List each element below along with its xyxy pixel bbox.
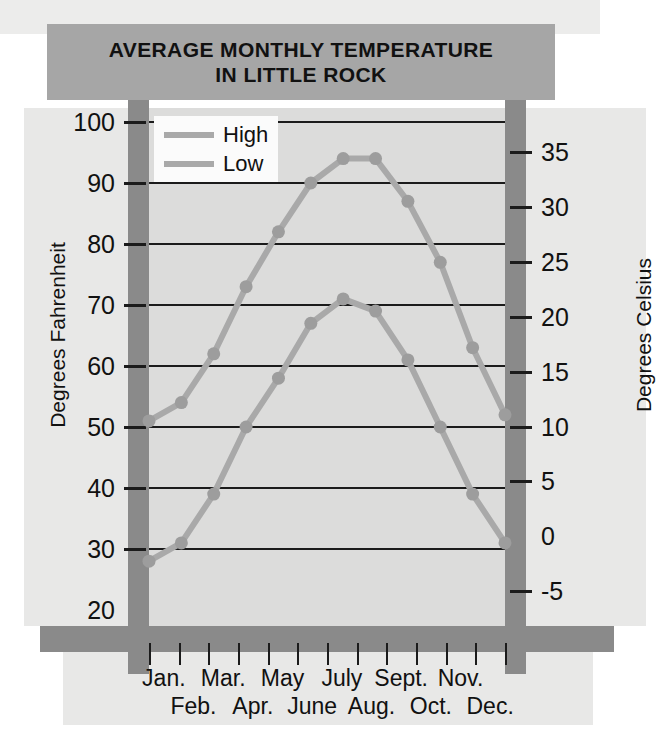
x-tick-mark: [446, 643, 448, 665]
y-tick-right: 35: [510, 141, 589, 165]
chart-title-line-1: AVERAGE MONTHLY TEMPERATURE: [109, 37, 494, 62]
x-axis-month-label: Mar.: [201, 665, 246, 692]
x-axis-month-label: Nov.: [438, 665, 484, 692]
y-tick-right-label: 30: [541, 193, 589, 222]
x-tick-mark: [149, 643, 151, 665]
y-tick-right-mark: [510, 261, 532, 264]
y-tick-left: 90: [59, 171, 146, 195]
data-point: [401, 195, 414, 208]
y-tick-right: 0: [510, 525, 589, 549]
y-tick-right: 25: [510, 250, 589, 274]
data-point: [207, 347, 220, 360]
y-tick-left-label: 90: [59, 169, 115, 198]
x-tick-mark: [327, 643, 329, 665]
y-tick-left: 100: [59, 110, 146, 134]
y-tick-left-mark: [124, 243, 146, 246]
series-line-high: [149, 159, 505, 421]
legend-label-high: High: [223, 124, 268, 146]
x-axis-month-label: June: [287, 693, 337, 720]
x-tick-mark: [416, 643, 418, 665]
x-axis-month-label: Jan.: [142, 665, 185, 692]
x-axis-month-label: July: [321, 665, 362, 692]
y-tick-right: 20: [510, 305, 589, 329]
y-tick-right: 15: [510, 360, 589, 384]
data-point: [240, 280, 253, 293]
x-axis-month-label: Aug.: [348, 693, 395, 720]
y-tick-left-mark: [124, 609, 146, 612]
y-tick-right: 30: [510, 195, 589, 219]
y-tick-right-mark: [510, 426, 532, 429]
y-axis-right-label: Degrees Celsius: [632, 135, 656, 535]
data-point: [337, 152, 350, 165]
y-tick-right-label: 5: [541, 467, 589, 496]
y-tick-left-mark: [124, 121, 146, 124]
y-tick-left: 70: [59, 293, 146, 317]
data-point: [272, 372, 285, 385]
data-point: [175, 396, 188, 409]
chart-title-line-2: IN LITTLE ROCK: [215, 62, 386, 87]
data-point: [304, 317, 317, 330]
y-tick-left-label: 30: [59, 535, 115, 564]
x-axis-month-label: Dec.: [467, 693, 514, 720]
legend-swatch-high-icon: [164, 132, 214, 138]
x-axis-month-label: Sept.: [374, 665, 428, 692]
x-tick-mark: [297, 643, 299, 665]
y-tick-right: 10: [510, 415, 589, 439]
y-tick-right-label: -5: [541, 577, 589, 606]
y-tick-left: 20: [59, 598, 146, 622]
y-tick-left-label: 70: [59, 291, 115, 320]
y-axis-left: Degrees Fahrenheit 1009080706050403020: [24, 108, 150, 626]
x-axis-labels-row-2: Feb.Apr.JuneAug.Oct.Dec.: [63, 693, 593, 723]
data-point: [337, 292, 350, 305]
y-tick-left: 30: [59, 537, 146, 561]
data-point: [369, 152, 382, 165]
x-axis-labels-row-1: Jan.Mar.MayJulySept.Nov.: [63, 665, 593, 695]
y-tick-right-mark: [510, 480, 532, 483]
x-tick-mark: [386, 643, 388, 665]
y-tick-right-label: 35: [541, 138, 589, 167]
legend-label-low: Low: [223, 153, 263, 175]
y-tick-left: 80: [59, 232, 146, 256]
series-lines: [149, 108, 505, 626]
x-tick-mark: [505, 643, 507, 665]
data-point: [143, 555, 156, 568]
series-line-low: [149, 299, 505, 561]
y-tick-right: -5: [510, 580, 589, 604]
data-point: [466, 341, 479, 354]
x-axis-month-label: Apr.: [232, 693, 273, 720]
y-tick-left-mark: [124, 365, 146, 368]
y-tick-right-label: 0: [541, 522, 589, 551]
x-axis-month-label: Feb.: [170, 693, 216, 720]
x-tick-mark: [357, 643, 359, 665]
y-tick-right-label: 20: [541, 303, 589, 332]
data-point: [272, 225, 285, 238]
y-tick-left-label: 20: [59, 596, 115, 625]
data-point: [175, 536, 188, 549]
plot-area: High Low: [149, 108, 505, 626]
y-tick-left-mark: [124, 304, 146, 307]
data-point: [207, 488, 220, 501]
data-point: [143, 414, 156, 427]
y-tick-right-mark: [510, 371, 532, 374]
y-tick-right-label: 10: [541, 413, 589, 442]
y-tick-left-label: 60: [59, 352, 115, 381]
y-tick-left-mark: [124, 548, 146, 551]
y-tick-right-mark: [510, 590, 532, 593]
y-tick-left: 60: [59, 354, 146, 378]
y-tick-right-mark: [510, 316, 532, 319]
data-point: [401, 353, 414, 366]
x-axis-month-label: Oct.: [410, 693, 452, 720]
x-axis: Jan.Mar.MayJulySept.Nov. Feb.Apr.JuneAug…: [63, 639, 593, 725]
y-tick-left: 50: [59, 415, 146, 439]
data-point: [434, 256, 447, 269]
y-tick-right-mark: [510, 151, 532, 154]
data-point: [240, 421, 253, 434]
y-tick-right-mark: [510, 535, 532, 538]
y-tick-left-label: 50: [59, 413, 115, 442]
x-tick-mark: [208, 643, 210, 665]
x-tick-mark: [179, 643, 181, 665]
x-tick-mark: [268, 643, 270, 665]
y-axis-right: 35302520151050-5 Degrees Celsius: [506, 108, 646, 626]
data-point: [369, 305, 382, 318]
